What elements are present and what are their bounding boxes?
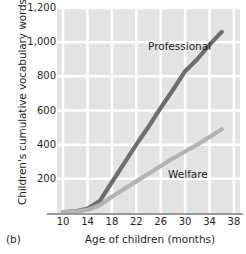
series-label-welfare: Welfare [168,168,208,180]
plot-area [57,8,240,213]
y-tick-label: 600 [10,105,56,116]
x-tick-label: 38 [219,216,246,227]
series-label-professional: Professional [148,40,211,52]
x-axis-title: Age of children (months) [57,233,243,245]
y-tick-label: 200 [10,173,56,184]
y-tick-label: 1,200 [10,2,56,13]
x-axis-line [47,213,243,215]
y-tick-label: 400 [10,139,56,150]
plot-canvas [57,8,240,213]
panel-label: (b) [6,233,21,245]
y-tick-label: 800 [10,70,56,81]
y-tick-label: 1,000 [10,36,56,47]
chart-root: Children's cumulative vocabulary words 2… [0,0,246,254]
